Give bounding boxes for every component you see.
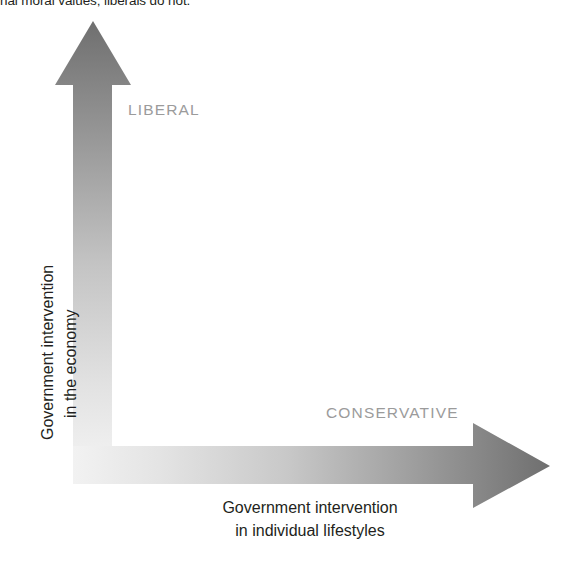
axes-arrows-graphic [0, 0, 566, 566]
y-axis-title-line1: Government intervention [39, 265, 56, 440]
x-axis-title-line2: in individual lifestyles [160, 519, 460, 542]
y-axis-title: Government intervention in the economy [36, 140, 82, 440]
y-axis-title-line2: in the economy [59, 140, 82, 418]
x-axis-title: Government intervention in individual li… [160, 496, 460, 542]
x-axis-title-line1: Government intervention [160, 496, 460, 519]
political-spectrum-figure: nal moral values; liberals do not. LIBER [0, 0, 566, 566]
quadrant-label-liberal: LIBERAL [128, 101, 200, 119]
quadrant-label-conservative: CONSERVATIVE [326, 404, 459, 422]
